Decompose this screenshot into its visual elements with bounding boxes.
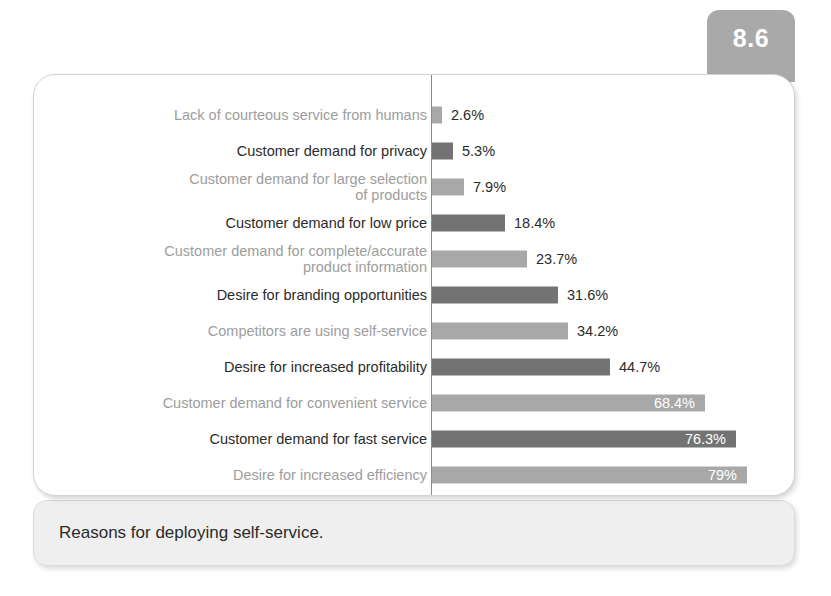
bar-row: Customer demand for convenient service68… [34,385,794,421]
bar [432,215,505,232]
bar-row: Customer demand for low price18.4% [34,205,794,241]
chart-card: Lack of courteous service from humans2.6… [33,74,795,496]
bar-category-label: Customer demand for privacy [97,143,427,159]
bar-row: Customer demand for privacy5.3% [34,133,794,169]
figure-caption-text: Reasons for deploying self-service. [59,523,324,543]
figure-number-label: 8.6 [733,26,769,51]
bar-value-label: 2.6% [451,107,484,123]
bar [432,179,464,196]
bar-value-label: 44.7% [619,359,660,375]
bar-value-label: 34.2% [577,323,618,339]
bar-row: Desire for increased profitability44.7% [34,349,794,385]
bar-row: Desire for increased efficiency79% [34,457,794,493]
bar [432,107,442,124]
bar [432,323,568,340]
bar-value-label: 7.9% [473,179,506,195]
figure-number-tab: 8.6 [707,10,795,82]
bar-category-label: Desire for branding opportunities [97,287,427,303]
figure-caption-box: Reasons for deploying self-service. [33,500,795,566]
bar-value-label: 68.4% [654,395,695,411]
bar-value-label: 5.3% [462,143,495,159]
bar [432,359,610,376]
bar-category-label: Customer demand for low price [97,215,427,231]
bar-category-label: Customer demand for convenient service [97,395,427,411]
bar-row: Customer demand for fast service76.3% [34,421,794,457]
bar-value-label: 76.3% [685,431,726,447]
bar-value-label: 18.4% [514,215,555,231]
bar-category-label: Competitors are using self-service [97,323,427,339]
bar-row: Competitors are using self-service34.2% [34,313,794,349]
bar-category-label: Lack of courteous service from humans [97,107,427,123]
bar-category-label: Customer demand for large selection of p… [97,171,427,203]
bar-category-label: Desire for increased efficiency [97,467,427,483]
bar-row: Customer demand for complete/accurate pr… [34,241,794,277]
bar-chart-plot-area: Lack of courteous service from humans2.6… [34,75,794,495]
bar-category-label: Customer demand for fast service [97,431,427,447]
bar [432,287,558,304]
bar-value-label: 79% [708,467,737,483]
bar [432,143,453,160]
bar-value-label: 23.7% [536,251,577,267]
bar-row: Desire for branding opportunities31.6% [34,277,794,313]
bar-value-label: 31.6% [567,287,608,303]
bar-row: Lack of courteous service from humans2.6… [34,97,794,133]
bar [432,467,747,484]
bar-category-label: Desire for increased profitability [97,359,427,375]
bar [432,251,527,268]
bar-row: Customer demand for large selection of p… [34,169,794,205]
bar-category-label: Customer demand for complete/accurate pr… [97,243,427,275]
